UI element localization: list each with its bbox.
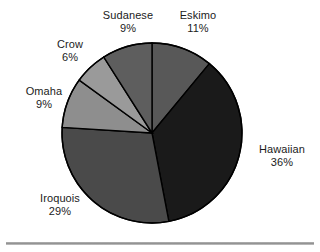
pie-label-omaha: Omaha 9% bbox=[10, 85, 78, 111]
pie-label-iroquois: Iroquois 29% bbox=[24, 192, 96, 218]
pie-label-iroquois-percent: 29% bbox=[24, 205, 96, 218]
pie-label-eskimo-percent: 11% bbox=[166, 22, 230, 35]
pie-label-sudanese: Sudanese 9% bbox=[92, 9, 164, 35]
pie-label-crow-percent: 6% bbox=[38, 51, 102, 64]
pie-label-eskimo-name: Eskimo bbox=[166, 9, 230, 22]
bottom-divider-rule bbox=[6, 242, 314, 245]
pie-label-omaha-percent: 9% bbox=[10, 98, 78, 111]
pie-label-crow: Crow 6% bbox=[38, 38, 102, 64]
pie-label-eskimo: Eskimo 11% bbox=[166, 9, 230, 35]
pie-label-omaha-name: Omaha bbox=[10, 85, 78, 98]
pie-label-iroquois-name: Iroquois bbox=[24, 192, 96, 205]
pie-label-crow-name: Crow bbox=[38, 38, 102, 51]
pie-label-sudanese-name: Sudanese bbox=[92, 9, 164, 22]
pie-label-sudanese-percent: 9% bbox=[92, 22, 164, 35]
pie-chart: Eskimo 11% Hawaiian 36% Iroquois 29% Oma… bbox=[0, 0, 320, 252]
pie-label-hawaiian-name: Hawaiian bbox=[246, 143, 318, 156]
pie-label-hawaiian: Hawaiian 36% bbox=[246, 143, 318, 169]
pie-label-hawaiian-percent: 36% bbox=[246, 156, 318, 169]
